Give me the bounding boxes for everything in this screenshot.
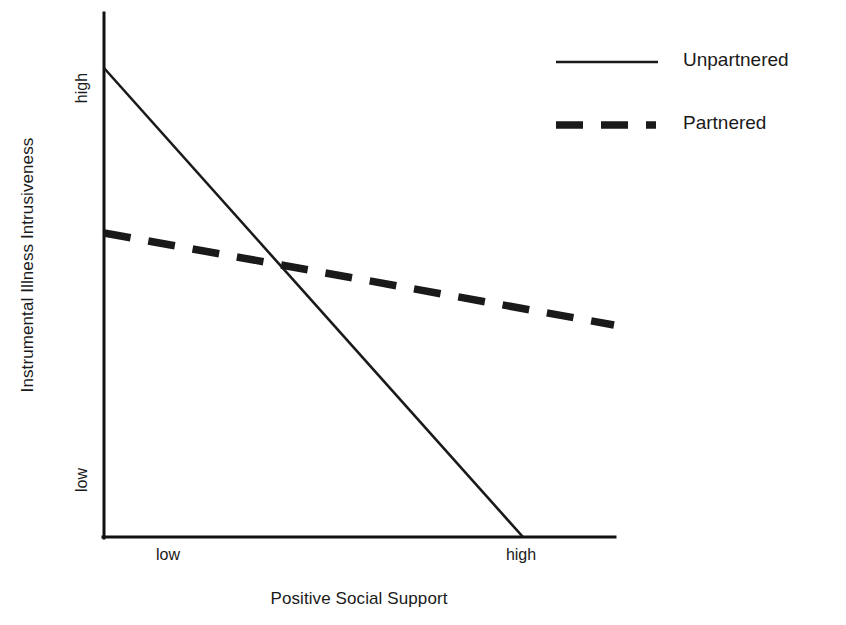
solid-line-icon xyxy=(555,56,659,68)
legend-entry-unpartnered: Unpartnered xyxy=(552,40,842,103)
x-tick-label-low: low xyxy=(145,546,191,564)
x-axis-title: Positive Social Support xyxy=(103,589,615,609)
chart-figure: Instrumental Illness Intrusiveness Posit… xyxy=(0,0,846,625)
x-tick-label-high: high xyxy=(494,546,548,564)
y-axis-title: Instrumental Illness Intrusiveness xyxy=(16,0,40,545)
series-line-unpartnered xyxy=(104,68,523,537)
series-line-partnered xyxy=(104,233,614,325)
chart-legend: Unpartnered Partnered xyxy=(552,40,842,166)
legend-label-unpartnered: Unpartnered xyxy=(683,49,789,71)
y-tick-label-high: high xyxy=(72,53,92,123)
y-tick-label-low: low xyxy=(72,445,92,515)
dashed-line-icon xyxy=(555,119,659,131)
legend-entry-partnered: Partnered xyxy=(552,103,842,166)
legend-label-partnered: Partnered xyxy=(683,112,766,134)
